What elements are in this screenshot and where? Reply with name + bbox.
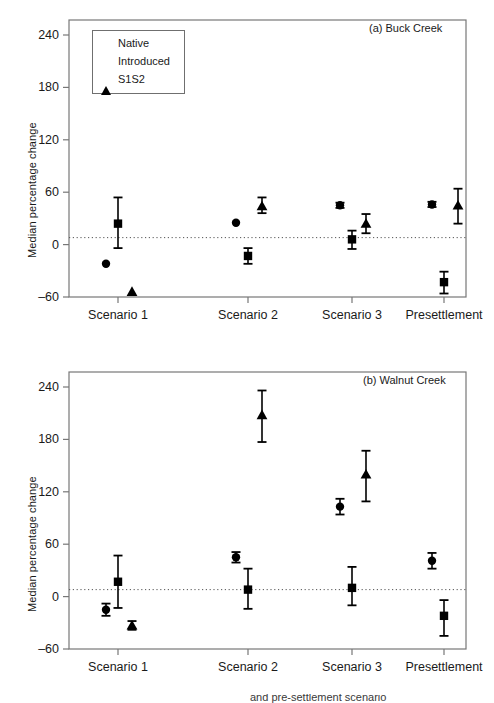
y-tick-label: 60: [45, 537, 59, 551]
caption-fragment: and pre-settlement scenario: [0, 694, 494, 703]
plot-area-buck-creek: 240180120600–60Scenario 1Scenario 2Scena…: [0, 0, 494, 352]
y-tick-label: –60: [38, 290, 59, 304]
legend-item-introduced: Introduced: [101, 55, 170, 67]
x-tick-label: Scenario 1: [88, 660, 148, 674]
data-point-native: [102, 260, 110, 268]
y-tick-label: 60: [45, 185, 59, 199]
legend: Native Introduced S1S2: [92, 30, 185, 94]
data-point-native: [232, 219, 240, 227]
panel-walnut-creek: 240180120600–60Scenario 1Scenario 2Scena…: [0, 352, 494, 703]
triangle-marker-icon: [101, 74, 112, 85]
caption-text: and pre-settlement scenario: [250, 694, 386, 703]
y-axis-label-walnut-creek: Median percentage change: [26, 476, 38, 612]
panel-title-buck-creek: (a) Buck Creek: [369, 22, 442, 34]
data-point-native: [336, 201, 345, 209]
x-tick-label: Presettlement: [405, 660, 483, 674]
legend-item-s1s2: S1S2: [101, 73, 145, 85]
legend-label-s1s2: S1S2: [118, 73, 145, 85]
y-tick-label: 180: [38, 432, 59, 446]
x-tick-label: Scenario 3: [322, 660, 382, 674]
x-tick-label: Scenario 2: [218, 660, 278, 674]
x-tick-label: Scenario 2: [218, 308, 278, 322]
y-tick-label: 240: [38, 380, 59, 394]
x-tick-label: Presettlement: [405, 308, 483, 322]
data-point-native: [428, 200, 437, 208]
y-tick-label: 240: [38, 28, 59, 42]
plot-frame: [69, 372, 466, 649]
panel-buck-creek: 240180120600–60Scenario 1Scenario 2Scena…: [0, 0, 494, 352]
legend-item-native: Native: [101, 37, 149, 49]
y-tick-label: 0: [52, 590, 59, 604]
y-axis-label-buck-creek: Median percentage change: [26, 122, 38, 258]
square-marker-icon: [101, 56, 112, 67]
y-tick-label: –60: [38, 642, 59, 656]
y-tick-label: 0: [52, 238, 59, 252]
legend-label-native: Native: [118, 37, 149, 49]
legend-label-introduced: Introduced: [118, 55, 170, 67]
panel-title-walnut-creek: (b) Walnut Creek: [363, 374, 446, 386]
circle-marker-icon: [101, 38, 112, 49]
figure-container: 240180120600–60Scenario 1Scenario 2Scena…: [0, 0, 494, 703]
y-tick-label: 120: [38, 485, 59, 499]
x-tick-label: Scenario 3: [322, 308, 382, 322]
y-tick-label: 120: [38, 133, 59, 147]
plot-area-walnut-creek: 240180120600–60Scenario 1Scenario 2Scena…: [0, 352, 494, 703]
x-tick-label: Scenario 1: [88, 308, 148, 322]
y-tick-label: 180: [38, 80, 59, 94]
